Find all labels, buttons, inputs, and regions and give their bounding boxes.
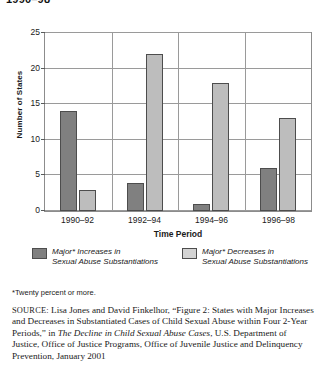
y-tick-15: 15 — [31, 98, 40, 108]
plot-area: 25 20 15 10 5 0 — [44, 32, 312, 212]
bar-increases-1996-98[interactable] — [260, 168, 277, 211]
dark-gray-swatch-icon — [32, 248, 47, 259]
x-tick-label-3: 1994–96 — [178, 215, 245, 225]
x-axis-labels: 1990–92 1992–94 1994–96 1996–98 — [44, 215, 312, 225]
x-axis-title: Time Period — [44, 229, 312, 239]
light-gray-swatch-icon — [182, 248, 197, 259]
chart-legend: Major* Increases in Sexual Abuse Substan… — [32, 247, 322, 267]
page-title: 1990–98 — [6, 0, 50, 5]
source-prefix: SOURCE: — [12, 306, 49, 315]
legend-item-increases: Major* Increases in Sexual Abuse Substan… — [32, 247, 172, 267]
y-tick-5: 5 — [35, 169, 40, 179]
y-axis-title: Number of States — [15, 50, 24, 160]
source-italic-title: The Decline in Child Sexual Abuse Cases — [58, 328, 210, 338]
y-tick-25: 25 — [31, 27, 40, 37]
bar-increases-1992-94[interactable] — [127, 183, 144, 211]
legend-increases-line1: Major* Increases in — [52, 247, 120, 256]
bar-increases-1994-96[interactable] — [193, 204, 210, 211]
x-tick-label-2: 1992–94 — [111, 215, 178, 225]
legend-label-increases: Major* Increases in Sexual Abuse Substan… — [52, 247, 158, 267]
bar-group-1990-92 — [45, 33, 112, 211]
bar-group-1994-96 — [178, 33, 245, 211]
bar-decreases-1992-94[interactable] — [146, 54, 163, 211]
legend-decreases-line2: Sexual Abuse Substantiations — [202, 257, 308, 266]
y-tick-20: 20 — [31, 63, 40, 73]
bar-group-1992-94 — [112, 33, 179, 211]
bar-decreases-1996-98[interactable] — [279, 118, 296, 211]
bar-decreases-1990-92[interactable] — [79, 190, 96, 211]
legend-label-decreases: Major* Decreases in Sexual Abuse Substan… — [202, 247, 308, 267]
y-tick-0: 0 — [35, 205, 40, 215]
bar-groups — [45, 33, 311, 211]
legend-increases-line2: Sexual Abuse Substantiations — [52, 257, 158, 266]
bar-increases-1990-92[interactable] — [60, 111, 77, 211]
bar-group-1996-98 — [245, 33, 312, 211]
source-note: SOURCE: Lisa Jones and David Finkelhor, … — [12, 305, 316, 362]
bar-chart: Number of States 25 20 15 10 5 0 — [0, 22, 326, 222]
bar-decreases-1994-96[interactable] — [212, 83, 229, 211]
legend-item-decreases: Major* Decreases in Sexual Abuse Substan… — [182, 247, 322, 267]
y-tick-10: 10 — [31, 134, 40, 144]
x-tick-label-4: 1996–98 — [245, 215, 312, 225]
x-tick-label-1: 1990–92 — [44, 215, 111, 225]
legend-decreases-line1: Major* Decreases in — [202, 247, 274, 256]
footnote: *Twenty percent or more. — [12, 288, 96, 297]
